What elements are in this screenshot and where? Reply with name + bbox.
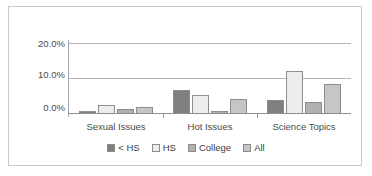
legend-item[interactable]: All: [243, 142, 265, 153]
bar-group: [257, 43, 351, 114]
chart-container: 20.0% 10.0% 0.0% Sexual Issues Hot Issue…: [8, 6, 362, 166]
bar: [211, 111, 228, 114]
legend-swatch-icon: [107, 144, 115, 152]
x-axis-tick: [257, 114, 258, 118]
legend-label: < HS: [118, 142, 139, 153]
legend-label: HS: [163, 142, 176, 153]
y-tick-label-0: 0.0%: [13, 103, 65, 113]
bar: [267, 100, 284, 114]
legend-swatch-icon: [188, 144, 196, 152]
legend-item[interactable]: < HS: [107, 142, 139, 153]
bar: [117, 109, 134, 114]
bar: [230, 99, 247, 114]
chart-legend: < HSHSCollegeAll: [9, 142, 363, 153]
legend-item[interactable]: College: [188, 142, 231, 153]
bar-group: [163, 43, 257, 114]
x-label-hot-issues: Hot Issues: [163, 121, 257, 132]
legend-swatch-icon: [152, 144, 160, 152]
bar-group: [69, 43, 163, 114]
x-label-sexual-issues: Sexual Issues: [69, 121, 163, 132]
y-tick-label-20: 20.0%: [13, 39, 65, 49]
bar: [324, 84, 341, 114]
bar: [305, 102, 322, 114]
bar: [98, 105, 115, 114]
x-axis-tick: [163, 114, 164, 118]
bar: [192, 95, 209, 114]
bar: [286, 71, 303, 114]
bar: [79, 111, 96, 114]
bar-groups: [69, 43, 351, 114]
x-axis-labels: Sexual Issues Hot Issues Science Topics: [69, 121, 351, 132]
bar: [136, 107, 153, 114]
x-label-science-topics: Science Topics: [257, 121, 351, 132]
y-tick-label-10: 10.0%: [13, 70, 65, 80]
legend-item[interactable]: HS: [152, 142, 176, 153]
bar: [173, 90, 190, 114]
legend-swatch-icon: [243, 144, 251, 152]
legend-label: All: [254, 142, 265, 153]
legend-label: College: [199, 142, 231, 153]
